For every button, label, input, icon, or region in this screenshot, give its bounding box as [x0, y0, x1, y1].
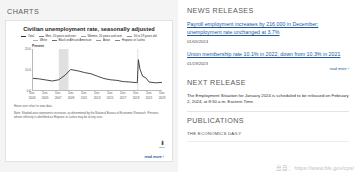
legend-swatch-icon — [52, 40, 57, 41]
legend-label: Asian — [103, 39, 110, 42]
series-line — [33, 60, 162, 83]
x-axis-tick-label: Dec2017 — [120, 91, 127, 99]
x-axis-tick-label: Dec2019 — [133, 91, 140, 99]
news-releases-title: NEWS RELEASES — [187, 6, 349, 15]
x-axis-tick-label: Dec2011 — [81, 91, 87, 99]
plot-canvas — [32, 49, 162, 91]
legend-item: White — [33, 39, 47, 42]
legend-swatch-icon — [96, 40, 101, 41]
publications-title: PUBLICATIONS — [187, 116, 349, 125]
legend-swatch-icon — [21, 36, 26, 37]
download-label: Excel — [159, 146, 165, 149]
economics-daily-label[interactable]: THE ECONOMICS DAILY — [187, 131, 349, 136]
legend-label: Hispanic or Latino — [122, 39, 145, 42]
legend-label: Black or African American — [59, 39, 92, 42]
recession-band — [59, 49, 69, 90]
legend-item: Total — [21, 35, 34, 38]
watermark-text: 出自：https://www.bls.gov/cps/ — [276, 164, 354, 172]
page-root: CHARTS Civilian unemployment rate, seaso… — [0, 0, 357, 172]
news-release-item: Payroll employment increases by 216,000 … — [187, 21, 349, 44]
chart-hover-note: Hover over chart to view data. — [14, 105, 164, 109]
legend-item: Asian — [96, 39, 110, 42]
legend-item: Black or African American — [52, 39, 91, 42]
news-release-headline[interactable]: Union membership rate 10.1% in 2022, dow… — [187, 51, 349, 59]
charts-section-title: CHARTS — [5, 4, 173, 20]
legend-label: White — [40, 39, 47, 42]
unemployment-line-chart — [33, 49, 162, 90]
x-axis-tick-label: Dec2013 — [94, 91, 101, 99]
y-axis-tick-label: 20.0 — [14, 47, 31, 51]
y-axis-unit-label: Percent — [32, 44, 166, 48]
x-axis-tick-label: Dec2005 — [42, 91, 49, 99]
news-column: NEWS RELEASES Payroll employment increas… — [178, 0, 357, 172]
download-excel-button[interactable]: ⬇ Excel — [159, 140, 165, 149]
legend-swatch-icon — [39, 36, 44, 37]
legend-label: Total — [28, 35, 34, 38]
divider — [187, 141, 349, 142]
y-axis-tick-label: 10.0 — [14, 68, 31, 72]
legend-swatch-icon — [33, 40, 38, 41]
legend-swatch-icon — [115, 40, 120, 41]
legend-item: Hispanic or Latino — [115, 39, 145, 42]
legend-swatch-icon — [127, 36, 132, 37]
next-release-text: The Employment Situation for January 202… — [187, 93, 349, 106]
legend-swatch-icon — [81, 36, 86, 37]
x-axis-tick-label: Dec2021 — [146, 91, 153, 99]
news-release-headline[interactable]: Payroll employment increases by 216,000 … — [187, 21, 349, 36]
news-read-more-link[interactable]: read more › — [187, 67, 349, 71]
x-axis-tick-label: Dec2015 — [107, 91, 114, 99]
chart-plot-area: 0.010.020.0 Dec2003Dec2005Dec2007Dec2009… — [14, 49, 164, 101]
news-release-item: Union membership rate 10.1% in 2022, dow… — [187, 51, 349, 71]
chart-legend: TotalMen, 20 years and overWomen, 20 yea… — [12, 35, 166, 42]
news-release-date: 01/05/2024 — [187, 39, 349, 44]
x-axis-tick-label: Dec2023 — [159, 91, 166, 99]
charts-column: CHARTS Civilian unemployment rate, seaso… — [0, 0, 178, 172]
x-axis-ticks: Dec2003Dec2005Dec2007Dec2009Dec2011Dec20… — [32, 91, 162, 101]
x-axis-tick-label: Dec2007 — [55, 91, 62, 99]
next-release-title: NEXT RELEASE — [187, 78, 349, 87]
news-release-date: 01/19/2023 — [187, 61, 349, 66]
chart-title: Civilian unemployment rate, seasonally a… — [12, 26, 166, 32]
charts-read-more-link[interactable]: read more › — [144, 155, 164, 159]
divider — [187, 111, 349, 112]
chart-footnote: Note: Shaded area represents recession, … — [14, 112, 164, 119]
chart-card: Civilian unemployment rate, seasonally a… — [5, 20, 173, 162]
x-axis-tick-label: Dec2009 — [68, 91, 75, 99]
x-axis-tick-label: Dec2003 — [29, 91, 36, 99]
